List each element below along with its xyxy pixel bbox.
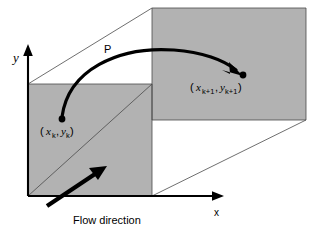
y-axis-label: y	[11, 50, 19, 65]
end-label-comma: ,	[215, 81, 218, 93]
end-label-open-paren: (	[190, 81, 194, 93]
end-label-x: x	[195, 81, 201, 93]
end-label-y-sub: k+1	[225, 87, 237, 96]
start-label-open-paren: (	[40, 125, 44, 137]
box-faces	[28, 8, 306, 196]
end-point-dot	[240, 72, 247, 79]
start-label-x: x	[45, 125, 51, 137]
start-label-close-paren: )	[70, 125, 74, 137]
x-axis-label: x	[214, 207, 219, 218]
mapping-label-p: P	[104, 43, 111, 55]
diagram-canvas: y x P Flow direction ( x k , y k ) ( x k…	[0, 0, 320, 232]
figure-root: y x P Flow direction ( x k , y k ) ( x k…	[0, 0, 320, 232]
flow-direction-label: Flow direction	[73, 214, 141, 226]
edge-bottom-right-receding	[152, 120, 306, 196]
start-point-dot	[59, 116, 66, 123]
end-label-close-paren: )	[238, 81, 242, 93]
x-axis-arrowhead	[212, 191, 224, 201]
y-axis-arrowhead	[23, 44, 33, 56]
end-label-x-sub: k+1	[202, 87, 214, 96]
edge-top-left-receding	[28, 8, 152, 84]
start-label-comma: ,	[56, 125, 59, 137]
